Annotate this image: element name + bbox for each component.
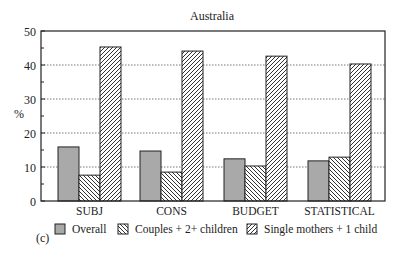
y-axis-ticks: 01020304050 [24, 25, 45, 209]
bar-groups [58, 47, 371, 201]
y-gridlines [41, 65, 385, 167]
bar [58, 147, 79, 201]
legend-swatch [55, 224, 65, 234]
y-axis-label: % [14, 107, 24, 121]
y-tick-label: 0 [30, 195, 36, 209]
bar [140, 151, 161, 201]
bar [308, 161, 329, 201]
bar [100, 47, 121, 201]
bar [161, 172, 182, 201]
legend-swatch [247, 224, 257, 234]
legend-swatch [118, 224, 128, 234]
y-tick-label: 30 [24, 93, 36, 107]
legend-label: Single mothers + 1 child [264, 223, 377, 236]
bar [79, 175, 100, 201]
bar [329, 157, 350, 201]
chart-title: Australia [190, 9, 235, 23]
legend-label: Couples + 2+ children [135, 223, 238, 236]
bar [245, 166, 266, 201]
legend-label: Overall [72, 223, 106, 235]
y-tick-label: 40 [24, 59, 36, 73]
bar [182, 51, 203, 201]
bar-chart: Australia 01020304050 % SUBJCONSBUDGETST… [0, 0, 398, 269]
x-tick-label: SUBJ [76, 205, 103, 217]
x-tick-label: BUDGET [232, 205, 279, 217]
x-tick-label: CONS [156, 205, 187, 217]
x-tick-label: STATISTICAL [304, 205, 375, 217]
x-axis-labels: SUBJCONSBUDGETSTATISTICAL [76, 205, 375, 217]
y-tick-label: 10 [24, 161, 36, 175]
y-tick-label: 20 [24, 127, 36, 141]
bar [224, 159, 245, 201]
bar [266, 56, 287, 201]
y-tick-label: 50 [24, 25, 36, 39]
panel-label: (c) [36, 231, 49, 245]
bar [350, 64, 371, 201]
legend: OverallCouples + 2+ childrenSingle mothe… [55, 223, 377, 236]
